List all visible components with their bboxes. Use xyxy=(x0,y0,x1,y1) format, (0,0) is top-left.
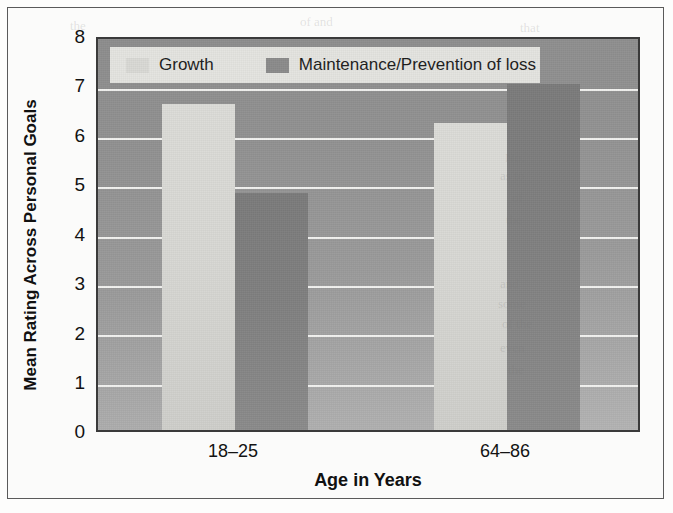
legend-item-maintenance: Maintenance/Prevention of loss xyxy=(266,55,536,75)
bar-maintenance-64-86 xyxy=(507,84,580,430)
chart-legend: Growth Maintenance/Prevention of loss xyxy=(110,47,540,83)
growth-swatch-icon xyxy=(126,58,149,73)
plot-area xyxy=(96,37,640,432)
x-axis-title: Age in Years xyxy=(96,470,640,491)
legend-item-growth: Growth xyxy=(126,55,214,75)
legend-label-growth: Growth xyxy=(159,55,214,75)
x-tick-label-64-86: 64–86 xyxy=(435,441,575,462)
bar-maintenance-18-25 xyxy=(235,193,308,430)
figure-page: 8 7 6 5 4 3 2 1 0 Mean Rating Across Per… xyxy=(0,0,673,513)
bar-growth-64-86 xyxy=(434,123,507,430)
bar-growth-18-25 xyxy=(162,104,235,430)
y-axis-title: Mean Rating Across Personal Goals xyxy=(21,95,41,395)
legend-label-maintenance: Maintenance/Prevention of loss xyxy=(299,55,536,75)
maintenance-swatch-icon xyxy=(266,58,289,73)
x-tick-label-18-25: 18–25 xyxy=(163,441,303,462)
